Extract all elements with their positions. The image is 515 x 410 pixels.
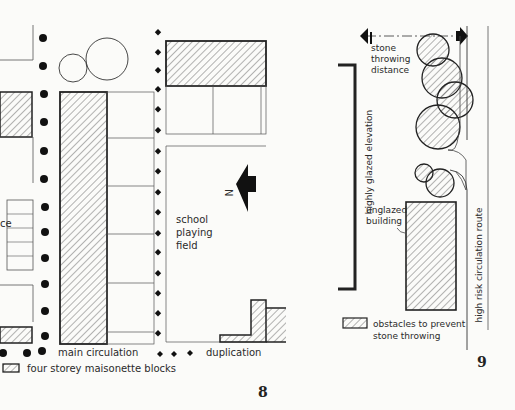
stone-label-1: stone — [371, 43, 396, 53]
tree-small — [59, 54, 87, 82]
pointer-line — [397, 228, 405, 233]
stone-label-2: throwing — [371, 54, 411, 64]
tree-large — [86, 38, 128, 80]
glazed-elevation-label: highly glazed elevation — [364, 110, 374, 215]
field-label-3: field — [176, 240, 198, 251]
maisonette-block-bottom-left — [0, 327, 32, 343]
legend-duplication: duplication — [206, 347, 261, 358]
small-building-grid — [7, 200, 33, 270]
field-label-1: school — [176, 214, 208, 225]
duplication-diamonds — [155, 29, 161, 336]
route-label: high risk circulation route — [474, 207, 484, 322]
main-circulation-dots — [39, 34, 49, 340]
maisonette-block-left — [0, 92, 32, 137]
figure-number-8: 8 — [258, 384, 268, 400]
legend-hatch-swatch — [3, 364, 19, 372]
maisonette-block-top-right — [166, 41, 266, 86]
glazed-elevation-bracket — [338, 65, 355, 289]
figure-9: stone throwing distance highly glazed el… — [338, 26, 488, 370]
maisonette-block-bottom-right — [220, 300, 266, 342]
figure-number-9: 9 — [477, 354, 487, 370]
stone-label-3: distance — [371, 65, 410, 75]
north-label: N — [223, 189, 234, 196]
cropped-label: ce — [0, 218, 12, 229]
figure-8-legend: main circulation duplication four storey… — [0, 347, 261, 374]
unglazed-label-2: building — [366, 216, 402, 226]
obstacle-trees — [415, 34, 473, 197]
field-label-2: playing — [176, 227, 213, 238]
unglazed-label-1: unglazed — [366, 205, 407, 215]
top-right-units — [166, 86, 266, 134]
north-arrow-icon — [236, 164, 256, 212]
legend-obstacle-swatch — [343, 318, 367, 328]
arrow-left-icon — [360, 28, 368, 44]
legend-maisonette-blocks: four storey maisonette blocks — [27, 363, 176, 374]
legend-obstacles-2: stone throwing — [373, 331, 440, 341]
figure-8: N school playing field ce main circulati… — [0, 25, 286, 400]
legend-main-circulation: main circulation — [58, 347, 138, 358]
diagram-canvas: N school playing field ce main circulati… — [0, 0, 515, 410]
unglazed-building — [406, 202, 456, 310]
legend-obstacles-1: obstacles to prevent — [373, 319, 466, 329]
maisonette-block-central — [60, 92, 107, 344]
partial-building-outline — [0, 25, 33, 60]
central-block-units — [107, 92, 154, 344]
